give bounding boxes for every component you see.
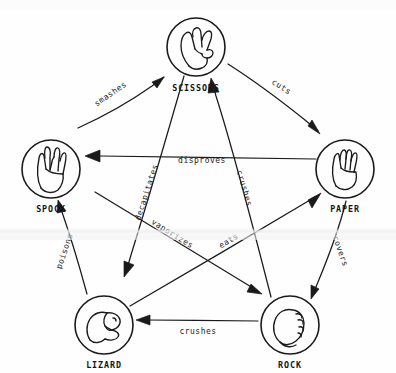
- edge-label-crushes-scissors: crushes: [235, 169, 254, 207]
- node-paper-label: PAPER: [330, 204, 360, 214]
- node-rock[interactable]: ROCK: [261, 296, 319, 370]
- edge-label-vaporizes: vaporizes: [150, 217, 195, 250]
- node-spock[interactable]: SPOCK: [22, 140, 80, 214]
- node-rock-label: ROCK: [278, 360, 302, 370]
- edge-label-decapitates: decapitates: [133, 163, 160, 221]
- hand-lizard-sockpuppet-icon: [87, 312, 120, 342]
- node-spock-label: SPOCK: [36, 204, 66, 214]
- edge-lizard-poisons-spock: poisons: [54, 200, 87, 294]
- node-lizard-label: LIZARD: [86, 360, 122, 370]
- rpsls-diagram: smashes cuts covers crushes: [0, 0, 396, 373]
- node-scissors-circle: [167, 18, 225, 76]
- edge-paper-disproves-spock: disproves: [85, 150, 316, 165]
- edge-rock-crushes-lizard: crushes: [136, 315, 258, 336]
- edge-scissors-decapitates-lizard: decapitates: [124, 76, 184, 277]
- node-rock-circle: [261, 296, 319, 354]
- edge-spock-smashes-scissors: smashes: [78, 77, 164, 128]
- edge-label-poisons: poisons: [54, 232, 75, 270]
- edge-label-eats: eats: [217, 232, 240, 251]
- edge-scissors-cuts-paper: cuts: [228, 64, 320, 134]
- node-scissors[interactable]: SCISSORS: [167, 18, 225, 93]
- hand-flat-paper-icon: [333, 150, 357, 190]
- node-layer: SCISSORS PAPER: [22, 18, 374, 370]
- diagram-canvas: smashes cuts covers crushes: [0, 0, 396, 373]
- node-spock-circle: [22, 140, 80, 198]
- hand-scissors-icon: [181, 28, 213, 69]
- edge-paper-covers-rock: covers: [311, 201, 350, 299]
- edge-label-disproves: disproves: [178, 156, 226, 165]
- edge-lizard-eats-paper: eats: [130, 193, 321, 306]
- edge-label-crushes-lizard: crushes: [179, 327, 216, 336]
- hand-fist-rock-icon: [274, 309, 304, 346]
- edge-label-covers: covers: [331, 235, 350, 268]
- node-lizard[interactable]: LIZARD: [75, 296, 133, 370]
- hand-vulcan-salute-icon: [38, 147, 66, 192]
- node-scissors-label: SCISSORS: [172, 83, 220, 93]
- edge-rock-crushes-scissors: crushes: [208, 78, 271, 297]
- edge-label-cuts: cuts: [270, 77, 293, 96]
- edge-layer: smashes cuts covers crushes: [54, 64, 349, 336]
